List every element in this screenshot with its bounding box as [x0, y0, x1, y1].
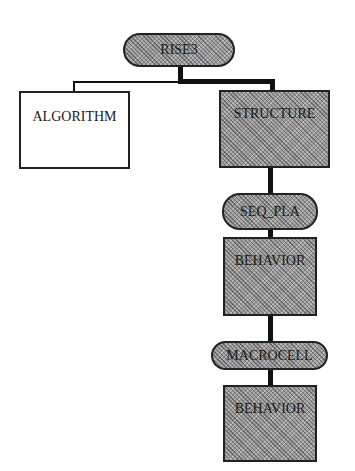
node-algorithm: ALGORITHM	[19, 91, 130, 169]
node-macrocell-label: MACROCELL	[226, 348, 312, 364]
edge-structure-to-seq-pla	[268, 166, 273, 195]
node-seq-pla-label: SEQ_PLA	[240, 204, 300, 220]
node-rise3: RISE3	[123, 33, 235, 67]
edge-root-to-algorithm-horizontal	[74, 81, 180, 83]
node-seq-pla: SEQ_PLA	[222, 193, 318, 230]
node-behavior-1: BEHAVIOR	[223, 237, 317, 316]
node-rise3-label: RISE3	[160, 42, 197, 58]
edge-root-to-structure-horizontal	[180, 79, 275, 84]
node-macrocell: MACROCELL	[211, 341, 328, 370]
node-structure-label: STRUCTURE	[234, 106, 316, 121]
node-behavior-2: BEHAVIOR	[223, 385, 317, 462]
edge-behavior-to-macrocell	[268, 314, 273, 343]
node-behavior-2-label: BEHAVIOR	[235, 401, 306, 416]
node-structure: STRUCTURE	[219, 90, 330, 168]
node-algorithm-label: ALGORITHM	[33, 109, 117, 124]
node-behavior-1-label: BEHAVIOR	[235, 253, 306, 268]
